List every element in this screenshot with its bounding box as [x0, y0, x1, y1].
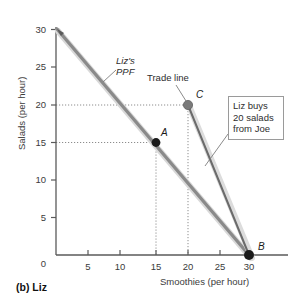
chart-canvas	[0, 0, 301, 302]
x-tick-label-15: 15	[146, 261, 166, 272]
y-tick-label-30: 30	[26, 24, 46, 35]
x-tick-marks	[88, 250, 249, 255]
axes	[56, 27, 288, 255]
point-label-a: A	[161, 127, 168, 138]
data-point-a	[152, 138, 161, 147]
callout-box-liz-buys-salads: Liz buys 20 salads from Joe	[228, 96, 284, 140]
y-tick-label-20: 20	[26, 99, 46, 110]
figure-caption: (b) Liz	[16, 281, 47, 293]
x-tick-label-20: 20	[178, 261, 198, 272]
y-tick-label-10: 10	[26, 174, 46, 185]
y-tick-marks	[51, 30, 56, 218]
x-tick-label-5: 5	[78, 261, 98, 272]
ppf-label-line2: PPF	[116, 66, 134, 77]
guide-lines	[56, 105, 188, 255]
data-point-b	[244, 250, 254, 260]
trade-line-label: Trade line	[147, 72, 189, 83]
y-tick-label-0: 0	[26, 258, 46, 269]
y-tick-label-15: 15	[26, 137, 46, 148]
point-label-b: B	[258, 241, 265, 252]
x-tick-label-10: 10	[110, 261, 130, 272]
trade-label-leader	[176, 85, 186, 101]
x-axis-title: Smoothies (per hour)	[160, 276, 249, 287]
y-tick-label-5: 5	[26, 212, 46, 223]
x-tick-label-25: 25	[210, 261, 230, 272]
data-point-c	[183, 100, 192, 109]
ppf-label-leader	[103, 70, 116, 82]
y-axis-title: Salads (per hour)	[16, 77, 27, 150]
point-label-c: C	[196, 89, 203, 100]
x-tick-label-30: 30	[239, 261, 259, 272]
figure-liz-ppf-trade-chart: 30 25 20 15 10 5 0 5 10 15 20 25 30 Sala…	[0, 0, 301, 302]
ppf-label-line1: Liz's	[116, 55, 135, 66]
y-tick-label-25: 25	[26, 61, 46, 72]
